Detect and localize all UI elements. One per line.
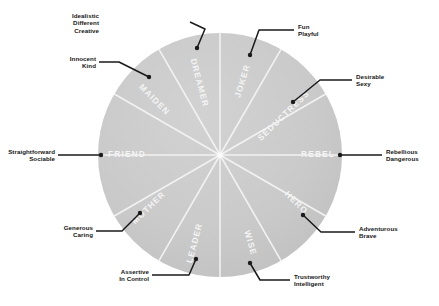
callout-text-dreamer: Idealistic Different Creative (44, 12, 99, 34)
archetype-wheel-diagram: DREAMER JOKER SEDUCTRESS REBEL HERO WISE… (0, 0, 439, 306)
callout-wise-line1: Trustworthy (294, 273, 330, 280)
callout-mother-line2: Caring (33, 231, 93, 238)
callout-text-wise: Trustworthy Intelligent (294, 273, 330, 288)
callout-rebel-line1: Rebellious (386, 148, 419, 155)
callout-rebel-line2: Dangerous (386, 155, 419, 162)
anchor-dot-hero (301, 213, 305, 217)
callout-maiden-line2: Kind (38, 62, 96, 69)
anchor-dot-friend (99, 153, 103, 157)
callout-seductress-line1: Desirable (356, 73, 384, 80)
callout-joker-line1: Fun (298, 23, 319, 30)
callout-text-friend: Straightforward Sociable (0, 148, 55, 163)
segment-label-friend: FRIEND (108, 149, 146, 159)
callout-wise-line2: Intelligent (294, 280, 330, 287)
callout-leader-line1: Assertive (88, 268, 149, 275)
anchor-dot-wise (248, 261, 252, 265)
callout-text-seductress: Desirable Sexy (356, 73, 384, 88)
callout-joker-line2: Playful (298, 30, 319, 37)
callout-mother-line1: Generous (33, 224, 93, 231)
callout-leader-line2: In Control (88, 275, 149, 282)
callout-text-maiden: Innocent Kind (38, 55, 96, 70)
callout-dreamer-line2: Different (44, 19, 99, 26)
callout-text-mother: Generous Caring (33, 224, 93, 239)
anchor-dot-mother (138, 211, 142, 215)
anchor-dot-maiden (147, 75, 151, 79)
callout-text-joker: Fun Playful (298, 23, 319, 38)
callout-hero-line1: Adventurous (359, 225, 398, 232)
callout-friend-line1: Straightforward (0, 148, 55, 155)
callout-dreamer-line1: Idealistic (44, 12, 99, 19)
callout-maiden-line1: Innocent (38, 55, 96, 62)
callout-hero-line2: Brave (359, 232, 398, 239)
callout-seductress-line2: Sexy (356, 80, 384, 87)
callout-text-rebel: Rebellious Dangerous (386, 148, 419, 163)
anchor-dot-leader (194, 257, 198, 261)
anchor-dot-dreamer (195, 46, 199, 50)
wheel-hub (217, 152, 222, 157)
anchor-dot-joker (248, 53, 252, 57)
callout-text-leader: Assertive In Control (88, 268, 149, 283)
callout-text-hero: Adventurous Brave (359, 225, 398, 240)
callout-dreamer-line3: Creative (44, 27, 99, 34)
callout-friend-line2: Sociable (0, 155, 55, 162)
anchor-dot-seductress (291, 100, 295, 104)
anchor-dot-rebel (338, 153, 342, 157)
wheel-graphic: DREAMER JOKER SEDUCTRESS REBEL HERO WISE… (0, 0, 439, 306)
segment-label-rebel: REBEL (301, 149, 335, 159)
